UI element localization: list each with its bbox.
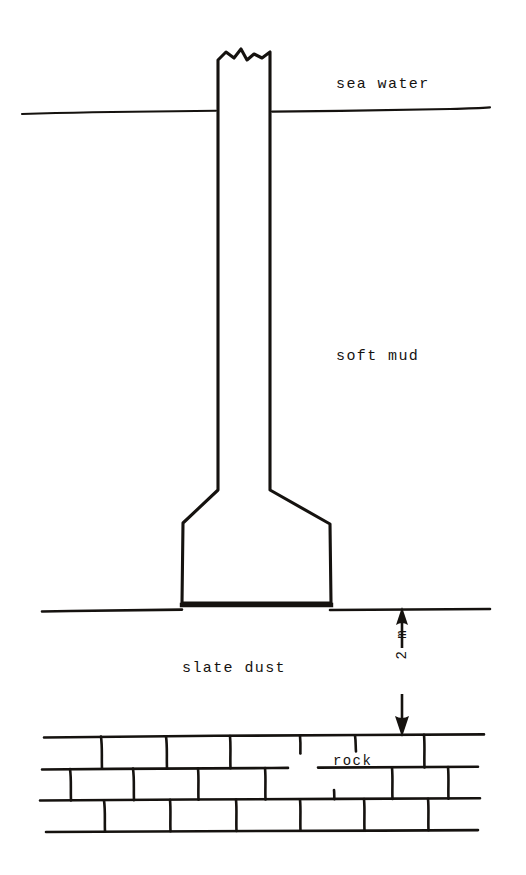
rock-head-joint-3e (364, 799, 365, 831)
rock-bed-joint-3 (40, 798, 480, 800)
label-slate-dust: slate dust (182, 660, 286, 677)
label-sea-water: sea water (336, 76, 430, 93)
rock-head-joint-3c (236, 800, 237, 831)
pier-column-outline (182, 49, 331, 603)
rock-head-joint-3a (104, 800, 105, 831)
rock-head-joint-2d (265, 768, 266, 800)
rock-head-joint-1c (230, 736, 231, 768)
rock-head-joint-2e (334, 790, 335, 799)
rock-head-joint-2g (448, 767, 449, 799)
rock-head-joint-2a (70, 769, 71, 800)
rock-head-joint-3d (300, 799, 301, 831)
rock-head-joint-3b (170, 800, 171, 831)
dimension-2m (395, 607, 409, 737)
rock-head-joint-1b (166, 736, 167, 768)
rock-head-joint-3f (428, 799, 429, 831)
rock-head-joint-1f (424, 735, 425, 768)
rock-head-joint-1a (101, 737, 102, 769)
rock-head-joint-2b (133, 769, 134, 801)
label-soft-mud: soft mud (336, 348, 419, 365)
rock-head-joint-1e (355, 735, 356, 751)
mudline-right (330, 609, 490, 610)
label-rock: rock (333, 753, 372, 769)
sea-water-surface-line-right (272, 107, 490, 111)
rock-head-joint-1d (300, 736, 301, 754)
rock-masonry-hatching (40, 734, 484, 832)
rock-bed-joint-2 (42, 767, 478, 770)
sea-water-surface-line-left (22, 111, 216, 114)
rock-head-joint-2f (392, 768, 393, 800)
mudline-left (42, 610, 182, 612)
rock-bed-joint-1 (44, 734, 484, 737)
rock-bed-joint-4 (46, 830, 478, 832)
foundation-cross-section-diagram (0, 0, 526, 875)
label-dimension-2m: 2 m (394, 628, 410, 659)
diagram-page: sea water soft mud slate dust rock 2 m (0, 0, 526, 875)
rock-head-joint-2c (198, 768, 199, 800)
